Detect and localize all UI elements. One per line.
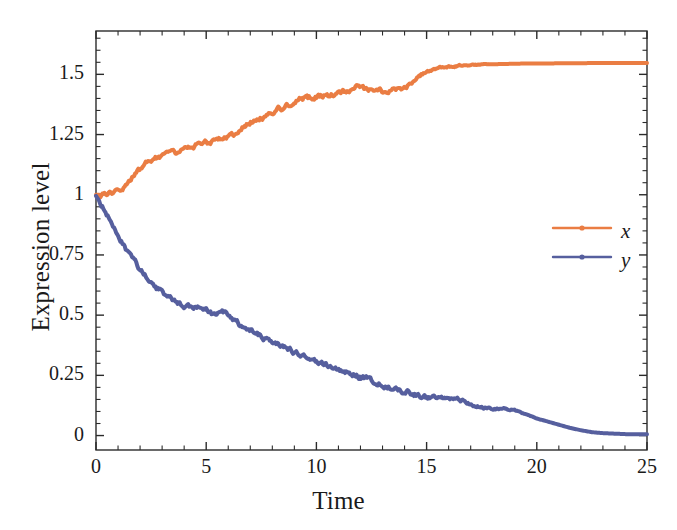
y-tick-label: 1.5 [14, 61, 84, 84]
legend-marker-x [579, 225, 584, 230]
figure-canvas: Time Expression level 0510152025 00.250.… [0, 0, 677, 530]
x-tick-label: 5 [176, 455, 236, 478]
x-tick-label: 15 [397, 455, 457, 478]
plot-frame [96, 31, 647, 450]
y-tick-label: 1 [14, 182, 84, 205]
plot-area [0, 0, 677, 530]
x-tick-label: 25 [617, 455, 677, 478]
frame-rect [96, 31, 647, 450]
series-line-x [96, 63, 647, 197]
y-tick-label: 0.75 [14, 242, 84, 265]
y-tick-label: 0.5 [14, 302, 84, 325]
axis-ticks [96, 31, 647, 450]
y-tick-label: 0.25 [14, 362, 84, 385]
legend-label-y: y [621, 248, 630, 273]
x-tick-label: 0 [66, 455, 126, 478]
y-tick-label: 0 [14, 423, 84, 446]
data-series-group [96, 63, 647, 434]
series-line-y [96, 196, 647, 434]
x-tick-label: 20 [507, 455, 567, 478]
y-tick-label: 1.25 [14, 122, 84, 145]
legend-label-x: x [621, 219, 630, 244]
legend-symbols [553, 225, 611, 259]
legend-marker-y [579, 254, 584, 259]
x-axis-label: Time [0, 487, 677, 515]
x-tick-label: 10 [286, 455, 346, 478]
